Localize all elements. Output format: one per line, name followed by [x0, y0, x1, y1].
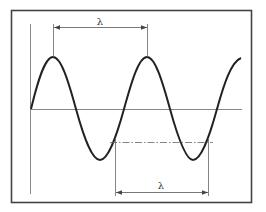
top-wavelength-dimension: λ [54, 16, 148, 57]
top-wavelength-label: λ [97, 16, 104, 27]
diagram-frame [12, 11, 252, 203]
bottom-wavelength-label: λ [158, 180, 165, 191]
sine-wave [31, 57, 241, 160]
wave-diagram: λ λ [0, 0, 266, 212]
bottom-wavelength-dimension: λ [116, 138, 209, 196]
